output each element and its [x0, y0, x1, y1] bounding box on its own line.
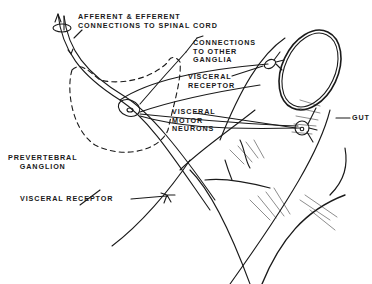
illustration: [0, 0, 372, 284]
gut-wall-bottom: [230, 110, 330, 284]
trunk-ring: [53, 24, 71, 32]
label-prevertebral-ganglion: PREVERTEBRAL GANGLION: [8, 154, 78, 171]
label-afferent-efferent: AFFERENT & EFFERENT CONNECTIONS TO SPINA…: [78, 13, 218, 30]
diagram-canvas: AFFERENT & EFFERENT CONNECTIONS TO SPINA…: [0, 0, 372, 284]
label-visceral-receptor-bottom: VISCERAL RECEPTOR: [20, 195, 113, 204]
label-visceral-motor-neurons: VISCERAL MOTOR NEURONS: [172, 108, 216, 134]
label-visceral-receptor-top: VISCERAL RECEPTOR: [188, 73, 235, 90]
receptor-bottom: [161, 193, 175, 203]
label-connections-other-ganglia: CONNECTIONS TO OTHER GANGLIA: [193, 39, 256, 65]
label-gut: GUT: [352, 114, 370, 123]
